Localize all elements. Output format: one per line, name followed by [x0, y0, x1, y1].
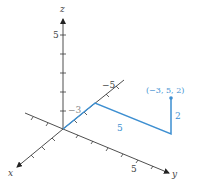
point-label: (−3, 5, 2) — [146, 86, 184, 95]
neg-x-tick-label-3: −3 — [68, 105, 82, 115]
y-tick-label-5: 5 — [131, 164, 137, 174]
neg-x-tick-label-5: −5 — [102, 80, 116, 90]
y-axis: y 5 — [63, 129, 178, 179]
x-axis-label: x — [8, 168, 13, 178]
z-tick-label-5: 5 — [53, 30, 59, 40]
segment-label-2: 2 — [175, 111, 181, 121]
point-marker — [169, 96, 173, 100]
y-axis-label: y — [171, 169, 178, 179]
z-axis-label: z — [59, 4, 65, 14]
negative-y-axis — [25, 113, 63, 129]
z-axis: z 5 — [53, 4, 66, 129]
3d-coordinate-diagram: z 5 y 5 x −3 −5 5 — [0, 0, 200, 186]
x-axis: x — [8, 129, 63, 178]
segment-label-5: 5 — [117, 123, 123, 133]
